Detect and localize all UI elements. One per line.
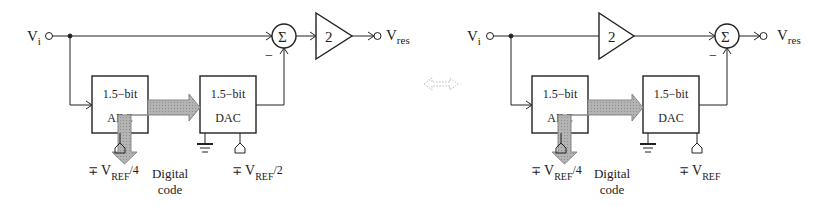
dac-ref-label: ∓VREF (679, 163, 721, 182)
output-label: Vres (386, 27, 410, 46)
minus-sign: − (265, 48, 273, 63)
dac-label-1: 1.5−bit (211, 87, 246, 101)
digital-code-label-2: code (158, 182, 183, 197)
minus-sign: − (709, 48, 717, 63)
sum-symbol: Σ (278, 29, 287, 45)
equivalence-arrow-icon (424, 78, 458, 90)
left-diagram: Vi Σ − 2 Vres 1.5−bit ADC 1.5−bit DAC (27, 13, 410, 197)
output-terminal-icon (374, 33, 381, 40)
input-terminal-icon (487, 33, 494, 40)
input-label: Vi (467, 28, 481, 47)
input-terminal-icon (46, 33, 53, 40)
pipeline-stage-diagram: Vi Σ − 2 Vres 1.5−bit ADC 1.5−bit DAC (0, 0, 831, 206)
amplifier-icon (316, 13, 352, 59)
output-label: Vres (777, 27, 801, 46)
dac-ref-terminal-icon (235, 143, 245, 153)
input-label: Vi (27, 28, 41, 47)
adc-label-1: 1.5−bit (543, 87, 578, 101)
digital-code-label-1: Digital (152, 166, 188, 181)
dac-label-2: DAC (215, 111, 240, 125)
right-diagram: Vi 2 Σ − Vres 1.5−bit ADC 1.5−bit DAC (467, 13, 801, 197)
amplifier-icon (599, 13, 634, 59)
output-terminal-icon (760, 33, 767, 40)
adc-ref-label: ∓VREF/4 (531, 163, 582, 182)
dac-label-1: 1.5−bit (654, 87, 689, 101)
dac-ref-label: ∓VREF/2 (232, 163, 283, 182)
digital-code-label-2: code (600, 182, 625, 197)
adc-label-1: 1.5−bit (103, 87, 138, 101)
amp-gain: 2 (325, 29, 333, 45)
dac-label-2: DAC (658, 111, 683, 125)
dac-ref-terminal-icon (692, 143, 702, 153)
amp-gain: 2 (608, 29, 616, 45)
sum-symbol: Σ (721, 29, 730, 45)
adc-ref-label: ∓VREF/4 (88, 163, 139, 182)
digital-code-label-1: Digital (594, 166, 630, 181)
